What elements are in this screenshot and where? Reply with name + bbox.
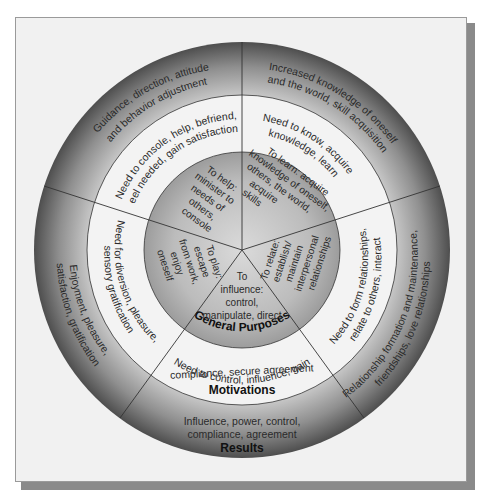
result-influence-line1: Influence, power, control, — [184, 415, 301, 427]
result-influence-line2: compliance, agreement — [187, 428, 296, 440]
results-label: Results — [220, 441, 264, 455]
svg-text:influence:: influence: — [221, 284, 264, 295]
purposes-wheel-diagram: General Purposes Motivations Results Gui… — [0, 0, 487, 499]
svg-text:manipulate, direct: manipulate, direct — [203, 310, 282, 321]
svg-text:control,: control, — [226, 297, 259, 308]
svg-text:To: To — [237, 271, 248, 282]
